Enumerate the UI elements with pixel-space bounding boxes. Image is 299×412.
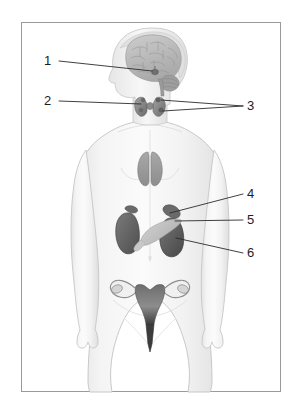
- label-3: 3: [247, 99, 254, 112]
- leader-line-3b: [163, 106, 243, 111]
- label-6: 6: [247, 246, 254, 259]
- label-2: 2: [44, 94, 51, 107]
- label-1: 1: [44, 54, 51, 67]
- label-4: 4: [247, 187, 254, 200]
- label-5: 5: [247, 213, 254, 226]
- endocrine-system-figure: 1 2 3 4 5 6: [0, 0, 299, 412]
- leader-line-2: [59, 101, 141, 104]
- leader-line-3a: [161, 100, 243, 106]
